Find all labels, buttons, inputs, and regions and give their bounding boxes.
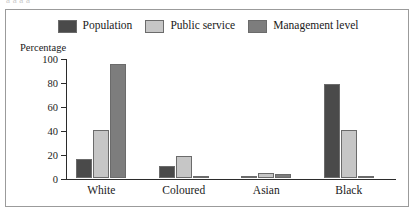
cropped-text: a a a a [6, 0, 30, 5]
bar [258, 173, 274, 178]
y-tick-mark [61, 83, 66, 84]
bar-group: White [76, 58, 126, 178]
bar [93, 130, 109, 178]
x-category-label: White [76, 184, 126, 196]
bar [110, 64, 126, 178]
chart-legend: Population Public service Management lev… [6, 16, 410, 36]
legend-swatch-population [58, 20, 77, 33]
legend-item-population: Population [58, 20, 133, 33]
legend-item-management-level: Management level [248, 20, 358, 33]
y-tick-mark [61, 179, 66, 180]
x-category-label: Coloured [159, 184, 209, 196]
bar [241, 176, 257, 178]
legend-label-population: Population [83, 20, 133, 32]
bar [76, 159, 92, 178]
plot-area: 020406080100 WhiteColouredAsianBlack [66, 59, 396, 179]
y-tick-mark [61, 131, 66, 132]
y-tick-mark [61, 59, 66, 60]
legend-swatch-management-level [248, 20, 267, 33]
bar-group: Coloured [159, 58, 209, 178]
bar [176, 156, 192, 178]
bar [159, 166, 175, 178]
chart-frame: Population Public service Management lev… [5, 9, 409, 207]
bar [358, 176, 374, 178]
bar [341, 130, 357, 178]
y-axis-label: Percentage [20, 42, 66, 53]
y-tick-label: 100 [42, 54, 58, 65]
y-tick-mark [61, 107, 66, 108]
y-axis-line [66, 59, 67, 180]
bar-group: Asian [241, 58, 291, 178]
bar [193, 176, 209, 178]
figure-container: a a a a Population Public service Manage… [0, 0, 417, 218]
bar [324, 84, 340, 178]
x-axis-line [66, 179, 396, 180]
legend-label-public-service: Public service [170, 20, 235, 32]
x-category-label: Asian [241, 184, 291, 196]
y-tick-label: 60 [48, 102, 59, 113]
x-category-label: Black [324, 184, 374, 196]
legend-label-management-level: Management level [273, 20, 358, 32]
y-tick-mark [61, 155, 66, 156]
y-tick-label: 80 [48, 78, 59, 89]
legend-swatch-public-service [145, 20, 164, 33]
bar [275, 174, 291, 178]
y-tick-label: 20 [48, 150, 59, 161]
legend-item-public-service: Public service [145, 20, 235, 33]
y-tick-label: 40 [48, 126, 59, 137]
cropped-text-above-figure: a a a a [0, 0, 417, 7]
bar-group: Black [324, 58, 374, 178]
y-tick-label: 0 [53, 174, 58, 185]
